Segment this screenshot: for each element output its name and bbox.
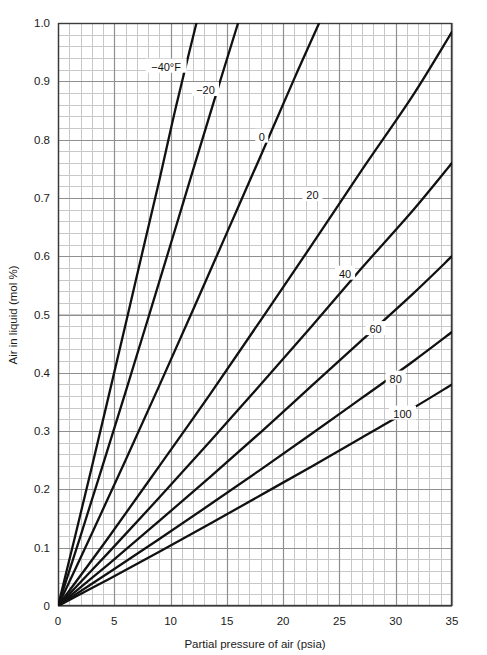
x-axis-title: Partial pressure of air (psia) (184, 638, 325, 650)
curve-label-20: 20 (306, 189, 318, 201)
curve-label--40: −40°F (151, 61, 181, 73)
y-tick-label: 0.4 (34, 367, 51, 379)
y-tick-label: 0.9 (34, 75, 50, 87)
x-tick-label: 15 (221, 615, 234, 627)
y-tick-label: 0.8 (34, 134, 50, 146)
y-tick-label: 0.1 (34, 542, 50, 554)
x-tick-label: 35 (446, 615, 459, 627)
x-tick-label: 20 (277, 615, 290, 627)
x-tick-label: 25 (333, 615, 346, 627)
y-tick-label: 0.3 (34, 425, 50, 437)
curve-label--20: −20 (196, 84, 215, 96)
curve-label-0: 0 (259, 131, 265, 143)
y-tick-label: 0.5 (34, 309, 50, 321)
curve-label-60: 60 (369, 323, 381, 335)
curve-label-40: 40 (339, 268, 351, 280)
y-tick-label: 0.6 (34, 250, 50, 262)
air-solubility-chart: −40°F−20020406080100 05101520253035 00.1… (0, 0, 487, 655)
y-axis-title: Air in liquid (mol %) (7, 265, 19, 364)
x-tick-label: 30 (389, 615, 402, 627)
y-tick-label: 0 (44, 600, 50, 612)
x-tick-label: 10 (164, 615, 177, 627)
curve-label-100: 100 (393, 408, 411, 420)
chart-figure: −40°F−20020406080100 05101520253035 00.1… (0, 0, 487, 655)
x-tick-label: 5 (111, 615, 117, 627)
curve-label-80: 80 (390, 373, 402, 385)
x-tick-label: 0 (55, 615, 61, 627)
y-tick-label: 0.2 (34, 483, 50, 495)
y-tick-label: 1.0 (34, 17, 50, 29)
y-tick-label: 0.7 (34, 192, 50, 204)
